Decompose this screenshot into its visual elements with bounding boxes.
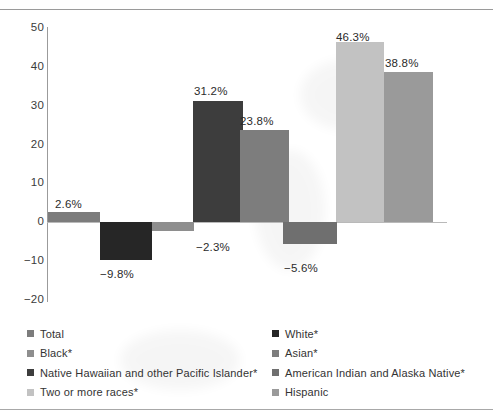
bar-series: 2.6%−9.8%−2.3%31.2%23.8%−5.6%46.3%38.8% <box>0 0 493 320</box>
legend-item-label: Total <box>40 328 64 340</box>
bar-value-label: −9.8% <box>100 268 134 280</box>
bar[interactable] <box>336 42 384 222</box>
bar-value-label: 46.3% <box>336 31 370 43</box>
legend-item-label: Asian* <box>285 347 318 359</box>
legend-column-right: White*Asian*American Indian and Alaska N… <box>272 324 465 402</box>
bar[interactable] <box>48 212 100 222</box>
chart-page: 50403020100−10−20 2.6%−9.8%−2.3%31.2%23.… <box>0 0 493 420</box>
legend-swatch-icon <box>27 330 34 337</box>
legend-item-label: Two or more races* <box>40 386 138 398</box>
bar[interactable] <box>193 101 243 222</box>
legend-swatch-icon <box>27 389 34 396</box>
legend-item[interactable]: Two or more races* <box>27 383 257 403</box>
chart-legend: TotalBlack*Native Hawaiian and other Pac… <box>0 324 493 406</box>
bar-value-label: −5.6% <box>284 262 318 274</box>
legend-swatch-icon <box>27 350 34 357</box>
legend-item[interactable]: American Indian and Alaska Native* <box>272 363 465 383</box>
legend-swatch-icon <box>272 330 279 337</box>
legend-item[interactable]: Black* <box>27 344 257 364</box>
legend-swatch-icon <box>272 389 279 396</box>
bar-value-label: −2.3% <box>196 241 230 253</box>
legend-swatch-icon <box>27 369 34 376</box>
legend-item-label: Black* <box>40 347 72 359</box>
legend-item[interactable]: Total <box>27 324 257 344</box>
legend-item[interactable]: White* <box>272 324 465 344</box>
legend-item-label: Native Hawaiian and other Pacific Island… <box>40 367 257 379</box>
page-rule-bottom <box>0 409 493 410</box>
legend-column-left: TotalBlack*Native Hawaiian and other Pac… <box>27 324 257 402</box>
legend-item[interactable]: Hispanic <box>272 383 465 403</box>
legend-item-label: American Indian and Alaska Native* <box>285 367 465 379</box>
legend-item[interactable]: Asian* <box>272 344 465 364</box>
legend-item-label: White* <box>285 328 318 340</box>
bar-value-label: 31.2% <box>194 85 228 97</box>
bar-value-label: 23.8% <box>240 115 274 127</box>
bar[interactable] <box>384 72 433 223</box>
bar-value-label: 2.6% <box>55 198 82 210</box>
legend-swatch-icon <box>272 350 279 357</box>
bar[interactable] <box>240 130 289 222</box>
bar[interactable] <box>152 222 194 231</box>
legend-item-label: Hispanic <box>285 386 328 398</box>
legend-item[interactable]: Native Hawaiian and other Pacific Island… <box>27 363 257 383</box>
bar-value-label: 38.8% <box>385 57 419 69</box>
bar-chart-plot: 50403020100−10−20 2.6%−9.8%−2.3%31.2%23.… <box>0 0 493 320</box>
bar[interactable] <box>100 222 152 260</box>
bar[interactable] <box>283 222 337 244</box>
legend-swatch-icon <box>272 369 279 376</box>
